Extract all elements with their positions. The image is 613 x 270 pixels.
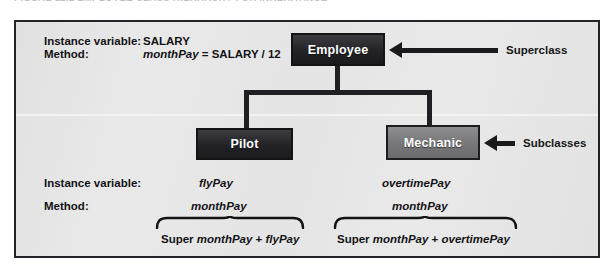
- class-box-pilot[interactable]: Pilot: [196, 128, 293, 160]
- brace-pilot: [155, 216, 305, 229]
- employee-method-name: monthPay: [143, 48, 199, 60]
- mechanic-derived-base: monthPay: [373, 233, 429, 245]
- employee-method-expression: = SALARY / 12: [199, 48, 281, 60]
- subclass-method-label: Method:: [44, 200, 89, 212]
- scan-seam: [16, 114, 598, 116]
- connector-crossbar: [244, 90, 432, 95]
- class-box-employee[interactable]: Employee: [291, 33, 385, 66]
- arrow-shaft: [497, 141, 515, 146]
- class-box-mechanic-label: Mechanic: [404, 136, 463, 150]
- subclasses-annotation: Subclasses: [484, 135, 586, 151]
- pilot-derived-operator: +: [252, 233, 265, 245]
- employee-method-label: Method:: [44, 48, 89, 60]
- arrow-left-icon: [484, 135, 497, 151]
- figure-caption: FIGURE 11.1 EMPLOYEE CLASS HIERARCHY FOR…: [14, 0, 494, 4]
- figure-container: FIGURE 11.1 EMPLOYEE CLASS HIERARCHY FOR…: [0, 0, 613, 270]
- brace-mechanic: [333, 216, 518, 229]
- mechanic-instance-variable-value: overtimePay: [382, 177, 450, 189]
- arrow-left-icon: [389, 42, 402, 58]
- pilot-instance-variable-value: flyPay: [199, 177, 233, 189]
- subclass-instance-variable-label: Instance variable:: [44, 177, 141, 189]
- employee-method-value: monthPay = SALARY / 12: [143, 48, 281, 60]
- arrow-shaft: [402, 48, 498, 53]
- pilot-method-value: monthPay: [191, 200, 247, 212]
- employee-instance-variable-value: SALARY: [143, 35, 190, 47]
- superclass-annotation-label: Superclass: [506, 44, 567, 56]
- class-box-employee-label: Employee: [308, 43, 369, 57]
- connector-drop-pilot: [244, 90, 249, 130]
- connector-drop-mechanic: [427, 90, 432, 127]
- class-box-pilot-label: Pilot: [230, 137, 258, 151]
- pilot-derived-prefix: Super: [161, 233, 197, 245]
- mechanic-derived-addend: overtimePay: [442, 233, 510, 245]
- connector-stem-employee: [335, 66, 340, 93]
- superclass-annotation: Superclass: [389, 42, 567, 58]
- pilot-derived-method: Super monthPay + flyPay: [161, 233, 299, 245]
- mechanic-derived-operator: +: [428, 233, 441, 245]
- employee-instance-variable-label: Instance variable:: [44, 35, 141, 47]
- class-box-mechanic[interactable]: Mechanic: [386, 125, 480, 160]
- mechanic-method-value: monthPay: [392, 200, 448, 212]
- pilot-derived-addend: flyPay: [266, 233, 300, 245]
- mechanic-derived-method: Super monthPay + overtimePay: [337, 233, 510, 245]
- mechanic-derived-prefix: Super: [337, 233, 373, 245]
- subclasses-annotation-label: Subclasses: [523, 137, 586, 149]
- pilot-derived-base: monthPay: [197, 233, 253, 245]
